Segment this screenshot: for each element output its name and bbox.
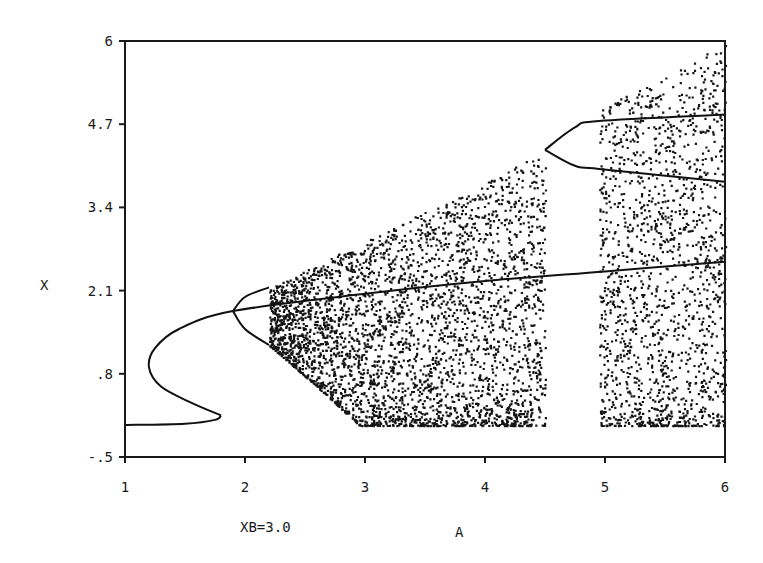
x-tick-label: 5 [601,479,609,495]
x-tick-label: 3 [361,479,369,495]
y-tick-label: 6 [105,33,113,49]
x-tick-label: 2 [241,479,249,495]
x-tick-label: 6 [721,479,729,495]
chaos-points [269,159,547,427]
y-tick-label: 3.4 [88,199,113,215]
y-axis-label: X [40,277,49,293]
bifurcation-curve [233,311,269,345]
y-axis-ticks: -.5.82.13.44.76 [88,33,125,465]
y-tick-label: 4.7 [88,116,113,132]
parameter-annotation: XB=3.0 [240,519,291,535]
chaos-points [599,45,727,427]
x-axis-ticks: 123456 [121,457,729,495]
y-tick-label: -.5 [88,449,113,465]
chaotic-scatter-points [269,45,727,427]
y-tick-label: 2.1 [88,283,113,299]
bifurcation-chart: -.5.82.13.44.76 123456 X A XB=3.0 [0,0,763,563]
bifurcation-curve [149,262,725,416]
x-axis-label: A [455,524,464,540]
bifurcation-curve [125,415,221,425]
y-tick-label: .8 [96,366,113,382]
x-tick-label: 4 [481,479,489,495]
x-tick-label: 1 [121,479,129,495]
